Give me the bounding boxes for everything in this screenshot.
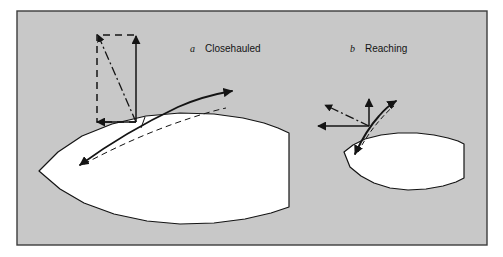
panel-b-letter: b: [350, 43, 355, 54]
diagram-canvas: a Closehauled b Reaching: [0, 0, 503, 257]
panel-a-letter: a: [190, 43, 195, 54]
panel-b-label: Reaching: [365, 43, 407, 54]
panel-a-label: Closehauled: [205, 43, 261, 54]
sailing-force-diagram: a Closehauled b Reaching: [0, 0, 503, 257]
